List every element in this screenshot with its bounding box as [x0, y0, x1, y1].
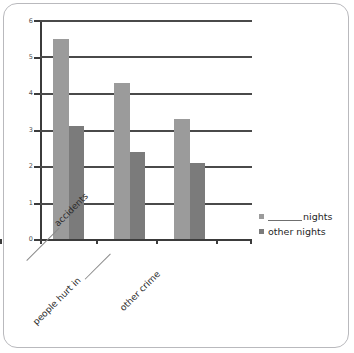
- bar-chart: 6 5 4 3 2 1 0 a: [0, 0, 354, 353]
- blank-line-nights: [268, 212, 302, 220]
- y-tick-label-2: 2: [7, 163, 33, 170]
- bar-group2-series2: [130, 152, 145, 239]
- y-tick-label-5: 5: [7, 54, 33, 61]
- legend-swatch-icon-nights: [259, 214, 264, 219]
- bar-group2-series1: [114, 83, 130, 239]
- legend-swatch-icon-other-nights: [259, 229, 264, 234]
- y-tick-label-0: 0: [7, 236, 33, 243]
- bar-group3-series1: [174, 119, 190, 239]
- x-tick-1b: [96, 239, 98, 244]
- gridline-4: [40, 93, 252, 95]
- bar-group3-series2: [190, 163, 205, 239]
- gridline-6: [40, 20, 252, 22]
- legend: nights other nights: [259, 209, 351, 239]
- x-category-label-2: people hurt in: [32, 248, 111, 327]
- blank-line-people-hurt: [80, 249, 111, 280]
- legend-label-other-nights: other nights: [268, 226, 326, 237]
- y-axis-labels: 6 5 4 3 2 1 0: [0, 0, 33, 353]
- legend-label-nights: nights: [303, 211, 332, 222]
- x-tick-end: [250, 239, 252, 244]
- y-tick-label-6: 6: [7, 18, 33, 25]
- legend-item-other-nights[interactable]: other nights: [259, 224, 351, 239]
- gridline-0-axis: [40, 239, 252, 241]
- x-category-text-2: people hurt in: [31, 275, 83, 327]
- legend-item-nights[interactable]: nights: [259, 209, 351, 224]
- x-tick-2: [156, 239, 158, 244]
- x-category-text-3: other crime: [118, 269, 162, 313]
- y-tick-label-3: 3: [7, 127, 33, 134]
- x-tick-3: [216, 239, 218, 244]
- x-tick-1: [0, 239, 2, 244]
- gridline-5: [40, 56, 252, 58]
- bar-group1-series2: [69, 126, 84, 239]
- y-tick-label-4: 4: [7, 90, 33, 97]
- x-category-label-3: other crime: [119, 270, 162, 313]
- y-tick-label-1: 1: [7, 200, 33, 207]
